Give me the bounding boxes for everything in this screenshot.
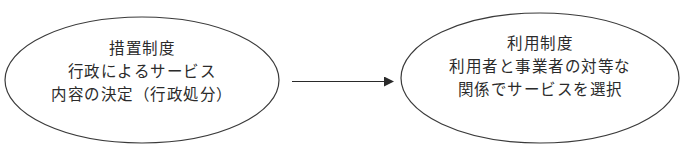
node-label-right: 利用制度 利用者と事業者の対等な 関係でサービスを選択 [400,33,680,102]
diagram-canvas: 措置制度 行政によるサービス 内容の決定（行政処分） 利用制度 利用者と事業者の… [0,0,683,144]
node-line: 利用者と事業者の対等な [400,56,680,79]
node-title: 利用制度 [400,33,680,56]
node-title: 措置制度 [4,38,280,61]
node-label-left: 措置制度 行政によるサービス 内容の決定（行政処分） [4,38,280,107]
node-line: 関係でサービスを選択 [400,79,680,102]
node-line: 内容の決定（行政処分） [4,84,280,107]
node-line: 行政によるサービス [4,61,280,84]
